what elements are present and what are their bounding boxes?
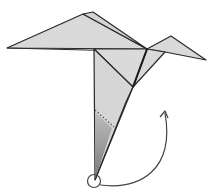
arrowhead-icon (160, 111, 168, 118)
origami-figure (0, 0, 218, 195)
origami-diagram: Origami crane step: fold tail point up (0, 0, 218, 195)
left-wing (7, 14, 147, 49)
fold-point-circle (88, 175, 101, 188)
